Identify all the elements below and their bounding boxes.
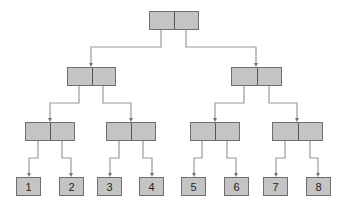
- node-left-pointer: [232, 68, 258, 85]
- leaf-node: 2: [59, 177, 84, 196]
- node-right-pointer: [298, 123, 323, 140]
- tree-edge: [215, 86, 244, 119]
- node-right-pointer: [131, 123, 155, 140]
- tree-edge: [50, 86, 79, 119]
- tree-node-LL: [25, 122, 75, 141]
- node-right-pointer: [50, 123, 74, 140]
- tree-edge: [186, 30, 256, 64]
- node-right-pointer: [257, 68, 282, 85]
- leaf-node: 3: [97, 177, 122, 196]
- tree-edge: [91, 30, 161, 64]
- tree-node-RL: [190, 122, 240, 141]
- leaf-node: 1: [16, 177, 41, 196]
- tree-edge: [110, 141, 119, 174]
- node-left-pointer: [191, 123, 216, 140]
- tree-edge: [276, 141, 285, 174]
- node-left-pointer: [26, 123, 51, 140]
- tree-edge: [227, 141, 236, 174]
- node-left-pointer: [273, 123, 299, 140]
- binary-tree-diagram: 12345678: [0, 0, 348, 209]
- node-right-pointer: [215, 123, 239, 140]
- tree-node-R: [231, 67, 282, 86]
- node-left-pointer: [68, 68, 93, 85]
- leaf-node: 4: [139, 177, 164, 196]
- tree-edges: [0, 0, 348, 209]
- node-left-pointer: [150, 12, 175, 29]
- tree-edge: [103, 86, 131, 119]
- tree-node-LR: [106, 122, 156, 141]
- leaf-node: 5: [181, 177, 206, 196]
- node-right-pointer: [92, 68, 116, 85]
- tree-node-L: [67, 67, 116, 86]
- leaf-node: 8: [306, 177, 331, 196]
- tree-edge: [62, 141, 71, 174]
- tree-edge: [310, 141, 318, 174]
- tree-edge: [29, 141, 38, 174]
- node-left-pointer: [107, 123, 132, 140]
- leaf-node: 6: [224, 177, 249, 196]
- tree-node-root: [149, 11, 199, 30]
- tree-edge: [143, 141, 152, 174]
- node-right-pointer: [174, 12, 198, 29]
- tree-edge: [269, 86, 297, 119]
- tree-edge: [194, 141, 202, 174]
- tree-node-RR: [272, 122, 323, 141]
- leaf-node: 7: [263, 177, 288, 196]
